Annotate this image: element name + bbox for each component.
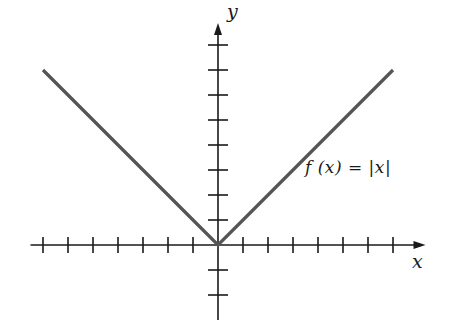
y-axis-label: y [227,0,238,22]
y-axis-arrow-icon [214,23,222,35]
x-axis-arrow-icon [414,241,426,249]
x-axis-label: x [412,250,423,272]
function-annotation: f (x) = |x| [305,157,391,177]
